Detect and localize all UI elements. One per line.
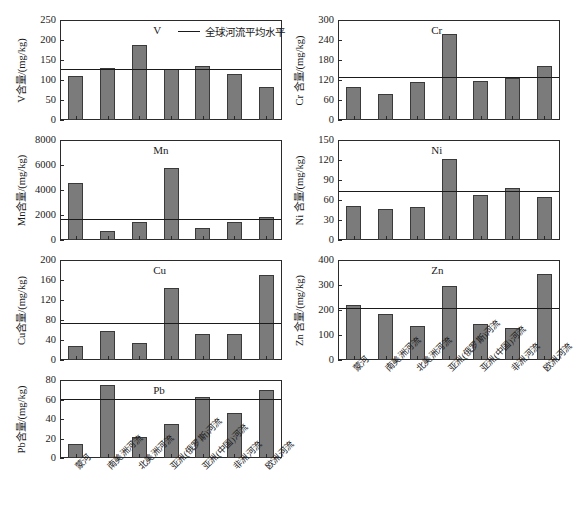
x-axis-category-label-0: 蒙河: [350, 352, 372, 374]
x-axis-category-label-6: 欧洲河流: [540, 340, 575, 375]
